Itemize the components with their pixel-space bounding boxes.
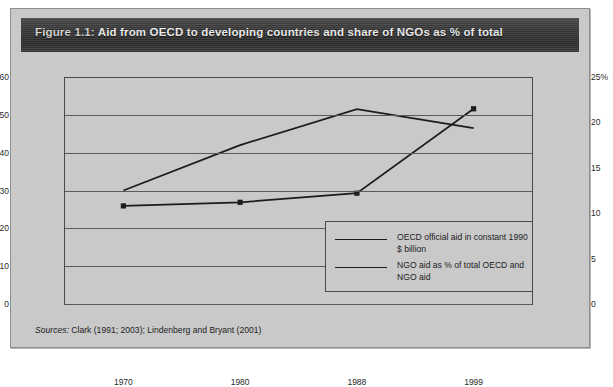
y-axis-right-tick-label: 5 bbox=[591, 254, 613, 264]
x-axis-tick-label: 1970 bbox=[93, 377, 153, 387]
source-label: Sources: bbox=[35, 325, 69, 335]
gridline bbox=[65, 304, 532, 305]
series-marker bbox=[471, 106, 476, 111]
y-axis-left-tick-label: 20 bbox=[0, 223, 9, 233]
source-note: Sources: Clark (1991; 2003); Lindenberg … bbox=[35, 325, 261, 335]
legend-line-swatch-oecd bbox=[335, 239, 387, 240]
figure-header-bar: Figure 1.1: Aid from OECD to developing … bbox=[21, 18, 579, 52]
series-marker bbox=[238, 200, 243, 205]
gridline bbox=[65, 77, 532, 78]
figure-title: Figure 1.1: Aid from OECD to developing … bbox=[35, 26, 503, 38]
y-axis-left-tick-label: 0 bbox=[0, 299, 9, 309]
y-axis-left-tick-label: 50 bbox=[0, 110, 9, 120]
figure-title-text: Aid from OECD to developing countries an… bbox=[98, 26, 503, 38]
y-axis-right-tick-label: 20 bbox=[591, 117, 613, 127]
y-axis-left-tick-label: 30 bbox=[0, 186, 9, 196]
gridline bbox=[65, 115, 532, 116]
y-axis-left-tick-label: 40 bbox=[0, 148, 9, 158]
y-axis-left-tick-label: 10 bbox=[0, 261, 9, 271]
x-axis-tick-label: 1988 bbox=[327, 377, 387, 387]
y-axis-right-tick-label: 10 bbox=[591, 208, 613, 218]
series-line-oecd bbox=[123, 109, 473, 190]
series-marker bbox=[121, 203, 126, 208]
y-axis-right-tick-label: 25% bbox=[591, 72, 613, 82]
legend-line-swatch-ngo bbox=[335, 267, 387, 268]
gridline bbox=[65, 153, 532, 154]
y-axis-left-tick-label: $60 bbox=[0, 72, 9, 82]
source-text: Clark (1991; 2003); Lindenberg and Bryan… bbox=[71, 325, 261, 335]
y-axis-right-tick-label: 0 bbox=[591, 299, 613, 309]
figure-panel: Figure 1.1: Aid from OECD to developing … bbox=[10, 8, 590, 348]
y-axis-right-tick-label: 15 bbox=[591, 163, 613, 173]
chart-legend: OECD official aid in constant 1990 $ bil… bbox=[325, 221, 533, 292]
x-axis-tick-label: 1999 bbox=[444, 377, 504, 387]
gridline bbox=[65, 191, 532, 192]
legend-label-oecd: OECD official aid in constant 1990 $ bil… bbox=[397, 232, 533, 255]
legend-label-ngo: NGO aid as % of total OECD and NGO aid bbox=[397, 260, 533, 283]
figure-number: Figure 1.1: bbox=[35, 26, 95, 38]
x-axis-tick-label: 1980 bbox=[210, 377, 270, 387]
